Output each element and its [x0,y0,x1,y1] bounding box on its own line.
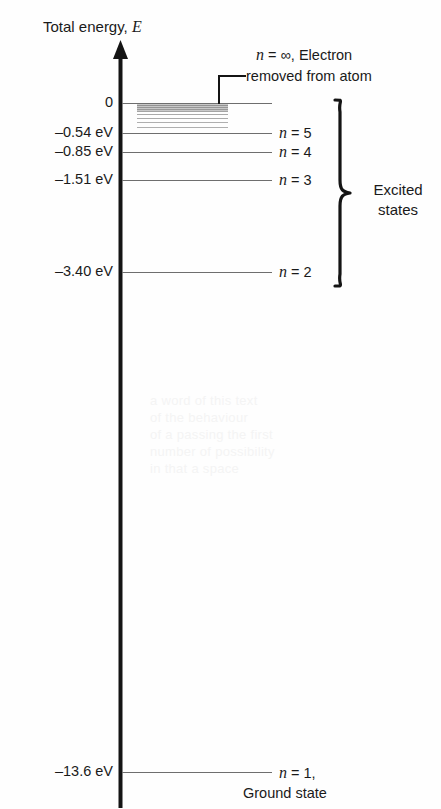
n-label-n2: n = 2 [279,263,312,281]
callout-leader-horizontal [218,75,246,77]
n-symbol: n [279,764,287,781]
n-symbol: n [279,124,287,141]
excited-states-line1: Excited [356,180,440,200]
level-line-n2 [122,272,272,273]
energy-label-n2: –3.40 eV [0,263,113,279]
bleed-line-5: in that a space [150,460,275,477]
continuum-line [137,105,228,106]
axis-title-symbol: E [132,18,142,35]
continuum-line [137,109,228,110]
energy-label-n1: –13.6 eV [0,763,113,779]
n-value: = 4 [287,144,312,160]
n-value: = 3 [287,172,312,188]
continuum-line [137,127,228,128]
continuum-line [137,107,228,108]
n-value: = 2 [287,264,312,280]
energy-label-0: 0 [0,94,113,110]
level-line-ionization [122,103,272,104]
continuum-line [137,118,228,119]
ionization-callout-text: = ∞, Electron [264,47,352,63]
brace-path [335,100,350,286]
continuum-line [137,111,228,112]
axis-title: Total energy, E [43,18,142,36]
level-line-n3 [122,180,272,181]
excited-states-label: Excited states [356,180,440,220]
n-label-n5: n = 5 [279,124,312,142]
n-symbol: n [279,171,287,188]
continuum-line [137,122,228,123]
ionization-callout-line2: removed from atom [246,66,372,87]
level-line-n1 [122,772,272,773]
axis-shaft [119,56,123,808]
bleed-line-2: of the behaviour [150,409,275,426]
bleed-line-3: of a passing the first [150,426,275,443]
n-label-n3: n = 3 [279,171,312,189]
callout-leader-vertical [218,75,220,104]
ground-state-label: Ground state [243,783,327,803]
bleed-line-4: number of possibility [150,443,275,460]
energy-level-diagram: a word of this text of the behaviour of … [0,0,441,809]
page-bleed-through: a word of this text of the behaviour of … [150,392,275,477]
energy-label-n4: –0.85 eV [0,143,113,159]
axis-title-text: Total energy, [43,18,128,35]
continuum-line [137,114,228,115]
level-line-n4 [122,152,272,153]
energy-label-n5: –0.54 eV [0,124,113,140]
ionization-callout-line1: n = ∞, Electron [256,44,352,66]
n-value: = 1, [287,765,316,781]
n-symbol: n [279,143,287,160]
excited-states-line2: states [356,200,440,220]
n-value: = 5 [287,125,312,141]
bleed-line-1: a word of this text [150,392,275,409]
level-line-n5 [122,133,272,134]
n-label-n1: n = 1, [279,763,316,783]
n-label-n4: n = 4 [279,143,312,161]
n-symbol: n [256,46,264,63]
energy-label-n3: –1.51 eV [0,171,113,187]
n-symbol: n [279,263,287,280]
